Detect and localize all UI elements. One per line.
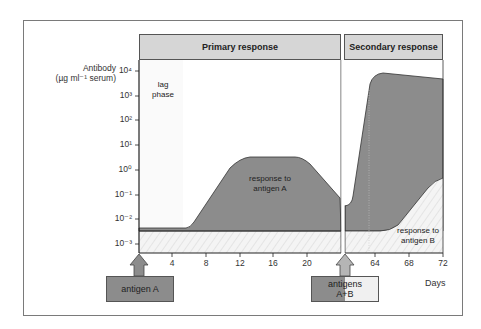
x-tick-label: 68 [399, 258, 419, 268]
y-tick-label: 10⁴ [100, 65, 132, 75]
y-tick-label: 10⁻² [100, 213, 132, 223]
antigen-ab-box: antigens A+B [311, 276, 379, 302]
x-tick-label: 8 [196, 258, 216, 268]
x-tick-label: 64 [365, 258, 385, 268]
response-b-label: response to antigen B [392, 226, 444, 245]
y-tick-label: 10³ [100, 90, 132, 100]
chart-plot [0, 0, 481, 329]
y-tick-label: 10⁻¹ [100, 189, 132, 199]
x-axis-label: Days [425, 278, 446, 288]
x-tick-label: 4 [162, 258, 182, 268]
y-tick-label: 10² [100, 114, 132, 124]
x-tick-label: 20 [297, 258, 317, 268]
x-tick-label: 72 [433, 258, 453, 268]
x-tick-label: 16 [263, 258, 283, 268]
antigen-a-box: antigen A [106, 276, 174, 302]
response-a-label: response to antigen A [240, 174, 300, 193]
y-tick-label: 10¹ [100, 139, 132, 149]
lag-phase-label: lag phase [148, 80, 178, 99]
antigen-ab-arrow-icon [336, 254, 354, 276]
antigen-a-arrow-icon [130, 254, 148, 276]
y-tick-label: 10⁻³ [100, 238, 132, 248]
x-tick-label: 12 [230, 258, 250, 268]
y-tick-label: 10⁰ [100, 164, 132, 174]
